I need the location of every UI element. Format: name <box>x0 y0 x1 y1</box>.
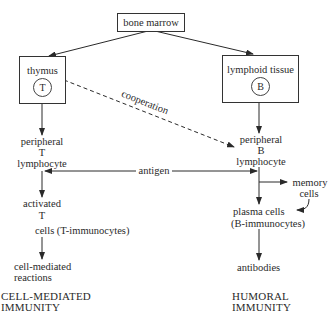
arrow-cooperation-dashed <box>64 80 234 147</box>
node-peripheral-b-line2: B <box>257 145 264 156</box>
node-plasma-cells-line1: plasma cells <box>233 206 285 217</box>
node-activated-t-line1: activated <box>23 198 61 209</box>
node-memory-cells-line2: cells <box>299 188 318 199</box>
node-bone-marrow: bone marrow <box>117 13 185 32</box>
node-plasma-cells-line2: (B-immunocytes) <box>231 218 305 229</box>
node-lymphoid-tissue: lymphoid tissue B <box>222 55 299 103</box>
node-bone-marrow-label: bone marrow <box>118 17 184 28</box>
arrow-memory-plasma <box>297 199 309 210</box>
footer-cell-mediated-line2: IMMUNITY <box>1 302 60 313</box>
node-activated-t-line3: cells (T-immunocytes) <box>35 225 129 236</box>
node-thymus-label: thymus <box>20 65 65 76</box>
node-peripheral-t-line2: T <box>39 147 45 158</box>
node-cell-mediated-reactions-line1: cell-mediated <box>14 261 71 272</box>
node-memory-cells-line1: memory <box>293 177 328 188</box>
arrow-bonemarrow-thymus <box>49 31 148 56</box>
t-cell-marker-icon: T <box>33 78 52 97</box>
node-activated-t-line2: T <box>39 210 45 221</box>
footer-humoral-line2: IMMUNITY <box>232 302 291 313</box>
b-cell-marker-icon: B <box>251 77 270 96</box>
node-peripheral-b-line1: peripheral <box>240 134 283 145</box>
node-peripheral-t-line1: peripheral <box>21 136 64 147</box>
node-antibodies: antibodies <box>237 262 280 273</box>
arrow-bonemarrow-lymphoid <box>155 31 253 54</box>
node-peripheral-b-line3: lymphocyte <box>236 156 286 167</box>
node-lymphoid-tissue-label: lymphoid tissue <box>223 64 298 75</box>
node-cell-mediated-reactions-line2: reactions <box>14 272 52 283</box>
node-thymus: thymus T <box>19 56 66 104</box>
node-peripheral-t-line3: lymphocyte <box>17 158 67 169</box>
edge-label-antigen: antigen <box>139 165 170 176</box>
